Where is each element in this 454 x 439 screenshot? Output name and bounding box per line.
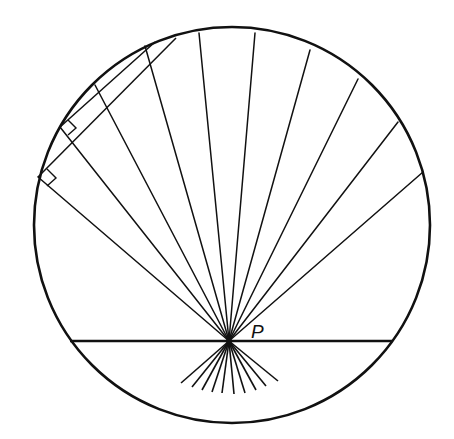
ray-line	[60, 127, 229, 341]
perpendicular-chord	[38, 38, 176, 177]
fan-line	[229, 341, 278, 381]
ray-line	[229, 122, 398, 341]
right-angle-mark	[68, 120, 76, 135]
fan-line	[229, 341, 266, 386]
ray-line	[38, 177, 229, 341]
perpendicular-chord	[60, 42, 155, 127]
point-P	[226, 338, 232, 344]
ray-line	[199, 33, 229, 341]
right-angle-mark	[47, 169, 56, 186]
perpendicular-chords	[38, 38, 176, 177]
fan-below-P	[181, 341, 278, 394]
point-P-label: P	[251, 321, 264, 342]
ray-line	[95, 85, 229, 341]
ray-line	[229, 172, 423, 341]
geometry-diagram: P	[0, 0, 454, 439]
ray-line	[145, 46, 229, 341]
